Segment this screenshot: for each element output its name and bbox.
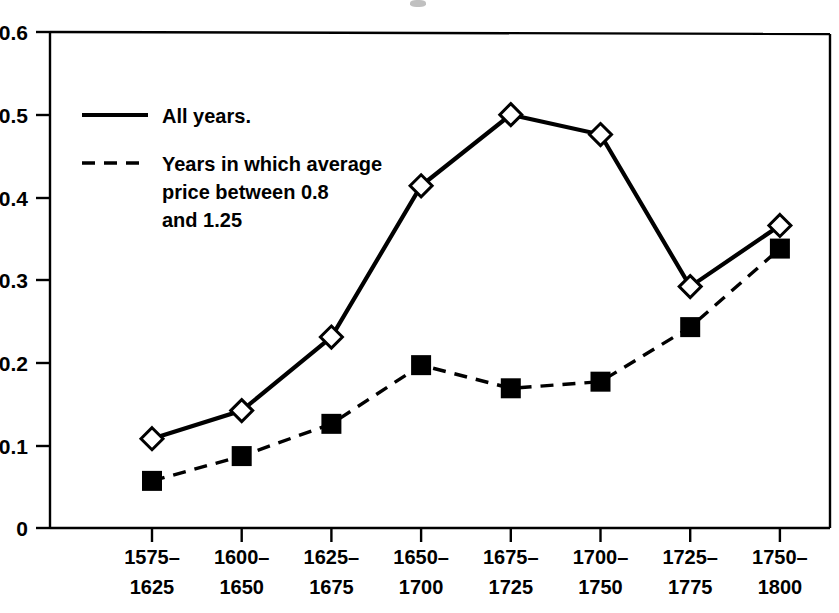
x-tick-label-1600–1650-line1: 1600– (214, 546, 270, 568)
x-tick-label-1725–1775-line2: 1775 (668, 576, 713, 598)
y-tick-label-0.6: 0.6 (0, 21, 28, 44)
data-point-square-1700–1750 (592, 373, 610, 391)
x-tick-label-1700–1750-line2: 1750 (578, 576, 623, 598)
plot-top-border (50, 32, 830, 34)
data-point-square-1600–1650 (233, 447, 251, 465)
x-axis-ticks (152, 528, 780, 542)
y-tick-label-0.1: 0.1 (0, 435, 28, 458)
x-tick-label-1575–1625-line2: 1625 (130, 576, 175, 598)
x-tick-label-1675–1725-line2: 1725 (489, 576, 534, 598)
x-tick-label-1650–1700-line1: 1650– (393, 546, 449, 568)
chart-figure: 0.6 0.5 0.4 0.3 0.2 0.1 0 1575–16251600–… (0, 0, 839, 613)
y-axis-ticks (36, 32, 50, 528)
legend-label-filtered-line1: Years in which average (162, 153, 382, 175)
x-tick-label-1750–1800-line2: 1800 (758, 576, 803, 598)
legend-label-all-years: All years. (162, 105, 251, 127)
y-tick-label-0.5: 0.5 (0, 104, 28, 127)
x-tick-label-1625–1675-line2: 1675 (309, 576, 354, 598)
y-axis-tick-labels: 0.6 0.5 0.4 0.3 0.2 0.1 0 (0, 21, 28, 540)
data-point-square-1625–1675 (322, 415, 340, 433)
y-tick-label-0.3: 0.3 (0, 269, 28, 292)
x-tick-label-1575–1625-line1: 1575– (124, 546, 180, 568)
x-tick-label-1600–1650-line2: 1650 (219, 576, 264, 598)
x-tick-label-1750–1800-line1: 1750– (752, 546, 808, 568)
y-tick-label-0.2: 0.2 (0, 352, 28, 375)
data-point-square-1750–1800 (771, 240, 789, 258)
chart-legend: All years. Years in which average price … (82, 105, 382, 231)
data-point-square-1675–1725 (502, 379, 520, 397)
data-point-square-1725–1775 (681, 318, 699, 336)
data-point-square-1575–1625 (143, 472, 161, 490)
x-axis-tick-labels: 1575–16251600–16501625–16751650–17001675… (124, 546, 808, 598)
line-chart: 0.6 0.5 0.4 0.3 0.2 0.1 0 1575–16251600–… (0, 0, 839, 613)
data-point-diamond-1700–1750 (590, 124, 612, 146)
y-tick-label-0: 0 (16, 517, 28, 540)
x-tick-label-1675–1725-line1: 1675– (483, 546, 539, 568)
x-tick-label-1700–1750-line1: 1700– (573, 546, 629, 568)
data-point-square-1650–1700 (412, 356, 430, 374)
x-tick-label-1725–1775-line1: 1725– (662, 546, 718, 568)
legend-label-filtered-line3: and 1.25 (162, 209, 242, 231)
data-point-diamond-1575–1625 (141, 428, 163, 450)
x-tick-label-1650–1700-line2: 1700 (399, 576, 444, 598)
y-tick-label-0.4: 0.4 (0, 187, 28, 210)
x-tick-label-1625–1675-line1: 1625– (304, 546, 360, 568)
legend-label-filtered-line2: price between 0.8 (162, 181, 329, 203)
